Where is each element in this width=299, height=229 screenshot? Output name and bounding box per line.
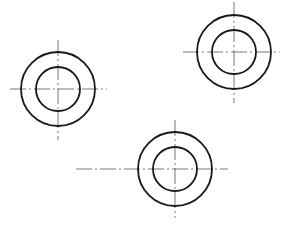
concentric-circle-top-right xyxy=(183,2,280,103)
concentric-circle-bottom xyxy=(76,120,228,218)
concentric-circle-left xyxy=(10,40,107,140)
drawing-canvas xyxy=(0,0,299,229)
